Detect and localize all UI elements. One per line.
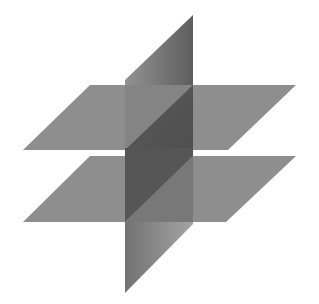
vertical-plane-gap-fill bbox=[125, 148, 193, 157]
planes-diagram bbox=[0, 0, 319, 304]
vertical-plane-bottom bbox=[125, 222, 193, 293]
vertical-plane-top bbox=[125, 15, 193, 85]
diagram-canvas bbox=[0, 0, 319, 304]
